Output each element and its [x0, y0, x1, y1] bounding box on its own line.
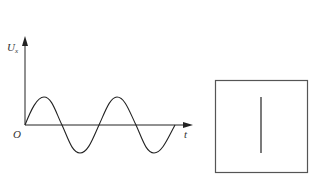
- x-axis: [25, 122, 193, 128]
- screen-box: [216, 81, 308, 173]
- diagram: U x O t: [0, 0, 315, 187]
- x-axis-label: t: [184, 128, 188, 140]
- origin-label: O: [13, 128, 21, 140]
- y-axis: [22, 36, 28, 125]
- y-axis-arrow-icon: [22, 36, 28, 46]
- y-axis-subscript: x: [14, 47, 19, 55]
